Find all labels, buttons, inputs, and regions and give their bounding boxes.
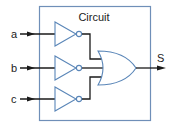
not-bubble-b xyxy=(76,65,81,70)
arrow-icon-a xyxy=(27,32,35,37)
output-arrow-icon xyxy=(157,66,166,71)
circuit-diagram: Circuit a b c S xyxy=(0,0,175,126)
not-bubble-c xyxy=(76,96,81,101)
circuit-title: Circuit xyxy=(78,11,109,23)
arrow-icon-b xyxy=(27,66,35,71)
input-arrows xyxy=(27,32,35,102)
input-label-c: c xyxy=(11,93,17,105)
arrow-icon-c xyxy=(27,97,35,102)
input-label-b: b xyxy=(11,62,17,74)
input-label-a: a xyxy=(11,28,18,40)
not-bubble-a xyxy=(76,31,81,36)
output-label: S xyxy=(157,52,164,64)
